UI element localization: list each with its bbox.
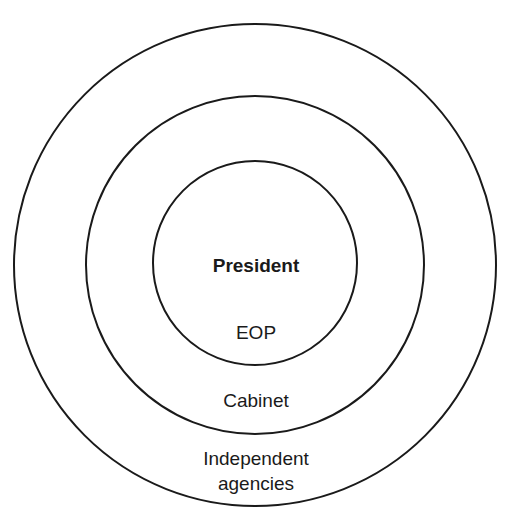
label-agencies: agencies <box>218 472 294 495</box>
label-president: President <box>213 254 300 277</box>
label-independent: Independent <box>203 447 309 470</box>
label-eop: EOP <box>236 321 276 344</box>
label-cabinet: Cabinet <box>223 389 289 412</box>
